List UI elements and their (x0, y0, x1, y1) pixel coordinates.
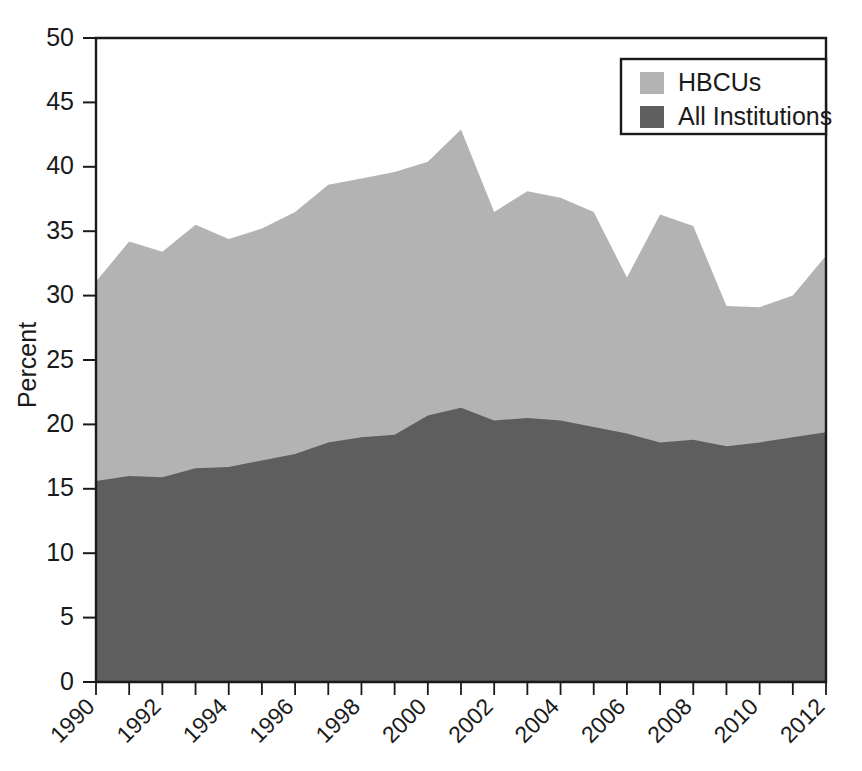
legend-label-hbcus: HBCUs (678, 68, 761, 96)
x-tick-label: 1996 (244, 693, 299, 748)
y-tick-label: 35 (46, 216, 74, 244)
y-tick-label: 15 (46, 473, 74, 501)
y-axis-title: Percent (13, 322, 41, 408)
x-tick-label: 2012 (775, 693, 830, 748)
chart-figure: 05101520253035404550 1990199219941996199… (0, 0, 862, 771)
legend-swatch-hbcus (640, 72, 664, 94)
x-tick-label: 2006 (576, 693, 631, 748)
chart-legend: HBCUs All Institutions (621, 59, 832, 134)
y-tick-label: 25 (46, 345, 74, 373)
chart-areas (96, 129, 826, 682)
y-axis-tick-labels: 05101520253035404550 (46, 23, 74, 695)
y-axis-ticks (83, 38, 96, 682)
y-tick-label: 50 (46, 23, 74, 51)
y-tick-label: 20 (46, 409, 74, 437)
x-tick-label: 1994 (178, 693, 233, 748)
y-tick-label: 30 (46, 280, 74, 308)
x-tick-label: 1998 (310, 693, 365, 748)
x-tick-label: 2004 (510, 693, 565, 748)
area-chart: 05101520253035404550 1990199219941996199… (0, 0, 862, 771)
y-tick-label: 10 (46, 538, 74, 566)
x-tick-label: 2000 (377, 693, 432, 748)
legend-swatch-all-institutions (640, 106, 664, 128)
x-tick-label: 1990 (45, 693, 100, 748)
y-tick-label: 5 (60, 602, 74, 630)
x-axis-ticks (96, 682, 826, 695)
legend-label-all-institutions: All Institutions (678, 102, 832, 130)
x-axis-tick-labels: 1990199219941996199820002002200420062008… (45, 693, 830, 748)
x-tick-label: 2010 (709, 693, 764, 748)
y-tick-label: 45 (46, 87, 74, 115)
x-tick-label: 2008 (642, 693, 697, 748)
y-tick-label: 0 (60, 667, 74, 695)
x-tick-label: 1992 (111, 693, 166, 748)
y-tick-label: 40 (46, 151, 74, 179)
x-tick-label: 2002 (443, 693, 498, 748)
